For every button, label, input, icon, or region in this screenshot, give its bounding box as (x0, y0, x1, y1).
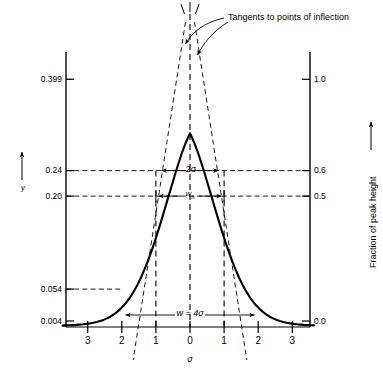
xtick-label-0: 3 (78, 336, 98, 346)
ytick-label-right-3: 0.0 (314, 317, 326, 326)
x-axis-label: σ (182, 355, 198, 364)
ytick-label-right-2: 0.5 (314, 192, 326, 201)
two-sigma-label: 2σ (181, 165, 201, 174)
ytick-label-left-2: 0.20 (18, 192, 62, 201)
tangent-callout-label: Tangents to points of inflection (228, 13, 349, 22)
left-axis-ticks (66, 79, 74, 321)
ytick-label-left-4: 0.004 (18, 317, 62, 326)
xtick-label-3: 0 (180, 336, 200, 346)
gaussian-curve (63, 133, 314, 325)
xtick-label-1: 2 (112, 336, 132, 346)
xtick-label-6: 3 (282, 336, 302, 346)
base-width-label: w = 4σ (170, 309, 210, 318)
xtick-label-4: 1 (214, 336, 234, 346)
xtick-label-2: 1 (146, 336, 166, 346)
ytick-label-right-1: 0.6 (314, 166, 326, 175)
y-axis-label: y (18, 184, 28, 192)
right-axis-label: Fraction of peak height (368, 176, 378, 268)
ytick-label-right-0: 1.0 (314, 75, 326, 84)
callout-arrows (186, 18, 229, 55)
ytick-label-left-1: 0.24 (18, 166, 62, 175)
chart-figure: 0.399 0.24 0.20 0.054 0.004 1.0 0.6 0.5 … (0, 0, 383, 383)
right-axis-ticks (302, 79, 310, 321)
ytick-label-left-3: 0.054 (18, 285, 62, 294)
half-height-width-label: wh (178, 190, 202, 200)
callout-arrow-left (186, 18, 225, 44)
wh-subscript: h (191, 194, 194, 200)
guide-lines (66, 79, 310, 289)
ytick-label-left-0: 0.399 (18, 75, 62, 84)
tangent-convergence-marks (181, 2, 199, 14)
xtick-label-5: 2 (248, 336, 268, 346)
